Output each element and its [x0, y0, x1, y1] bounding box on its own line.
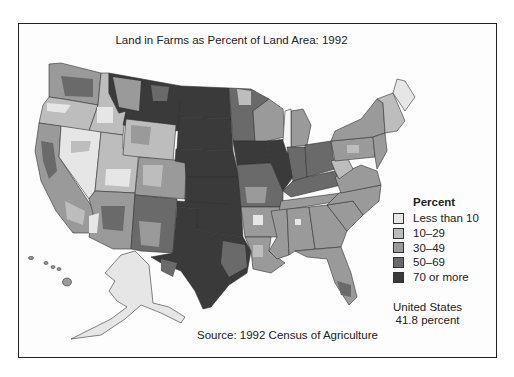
region-michigan	[291, 109, 311, 147]
region-south-dakota	[177, 117, 233, 151]
region-hawaii	[29, 257, 72, 287]
us-total-value: 41.8 percent	[393, 314, 462, 327]
legend-label: 10–29	[413, 227, 445, 239]
region-kansas	[185, 177, 241, 205]
legend-item: 50–69	[393, 255, 479, 270]
us-total-number: 41.8	[396, 314, 418, 326]
legend-label: 50–69	[413, 256, 445, 268]
legend-swatch	[393, 272, 404, 283]
region-mid-atlantic	[373, 133, 387, 169]
legend-item: 30–49	[393, 240, 479, 255]
legend-label: Less than 10	[413, 212, 479, 224]
legend-label: 70 or more	[413, 271, 469, 283]
legend-swatch	[393, 228, 404, 239]
legend-title: Percent	[413, 196, 479, 208]
region-ohio	[305, 141, 335, 177]
us-total-label: United States	[393, 301, 462, 314]
us-total: United States 41.8 percent	[393, 301, 462, 327]
us-total-unit: percent	[421, 314, 459, 326]
legend-swatch	[393, 213, 404, 224]
legend-swatch	[393, 257, 404, 268]
legend-item: 10–29	[393, 226, 479, 241]
legend: Percent Less than 10 10–29 30–49 50–69 7…	[393, 196, 479, 284]
region-north-dakota	[179, 86, 231, 119]
legend-item: Less than 10	[393, 211, 479, 226]
source-note: Source: 1992 Census of Agriculture	[197, 329, 378, 341]
map-frame: Land in Farms as Percent of Land Area: 1…	[18, 23, 497, 358]
region-new-york	[331, 99, 385, 141]
legend-swatch	[393, 242, 404, 253]
legend-item: 70 or more	[393, 270, 479, 285]
region-iowa	[233, 141, 271, 165]
legend-label: 30–49	[413, 242, 445, 254]
